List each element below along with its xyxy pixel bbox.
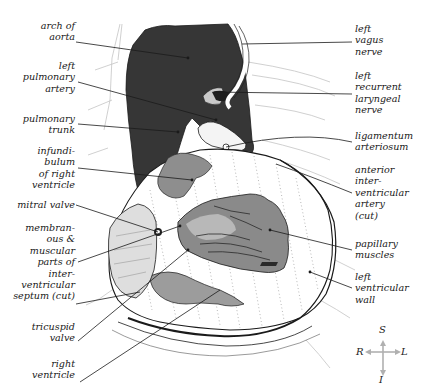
label-left-pulmonary-artery: left pulmonary artery bbox=[23, 60, 75, 94]
compass-right: R bbox=[356, 346, 364, 357]
label-papillary-muscles: papillary muscles bbox=[355, 238, 398, 261]
compass-inferior: I bbox=[379, 374, 383, 385]
label-ligamentum-arteriosum: ligamentum arteriosum bbox=[355, 130, 413, 153]
label-pulmonary-trunk: pulmonary trunk bbox=[23, 113, 75, 136]
label-interventricular-septum: membran- ous & muscular parts of inter- … bbox=[13, 222, 75, 302]
compass-left: L bbox=[401, 346, 408, 357]
label-infundibulum: infundi- bulum of right ventricle bbox=[32, 145, 75, 191]
compass-superior: S bbox=[379, 324, 386, 335]
label-left-vagus-nerve: left vagus nerve bbox=[355, 23, 383, 57]
label-left-recurrent-laryngeal-nerve: left recurrent laryngeal nerve bbox=[355, 70, 402, 116]
label-anterior-interventricular-artery: anterior inter- ventricular artery (cut) bbox=[355, 164, 409, 221]
anatomy-figure: arch of aorta left pulmonary artery pulm… bbox=[0, 0, 423, 389]
label-arch-of-aorta: arch of aorta bbox=[41, 20, 75, 43]
label-left-ventricular-wall: left ventricular wall bbox=[355, 271, 409, 305]
label-tricuspid-valve: tricuspid valve bbox=[32, 321, 75, 344]
label-mitral-valve: mitral valve bbox=[17, 199, 75, 210]
orientation-compass bbox=[365, 340, 401, 376]
label-right-ventricle: right ventricle bbox=[32, 358, 75, 381]
